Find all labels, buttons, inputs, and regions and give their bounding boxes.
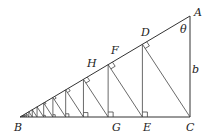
segment (108, 65, 142, 117)
right-angle-marks (44, 42, 150, 117)
label-d: D (140, 26, 150, 39)
side-ab (20, 16, 190, 117)
segment (66, 90, 84, 117)
segment (32, 110, 37, 117)
label-c: C (186, 121, 195, 134)
right-angle-mark (108, 112, 113, 117)
segment (29, 112, 32, 117)
label-h: H (86, 57, 97, 70)
label-b-vertex: B (13, 121, 22, 134)
perpendicular-sequence (21, 44, 190, 117)
label-e: E (142, 121, 151, 134)
label-theta: θ (180, 23, 187, 36)
segment (53, 97, 66, 117)
triangle-diagram: A θ b D F H B G E C (0, 0, 212, 139)
label-f: F (110, 44, 119, 57)
segment (44, 103, 53, 117)
segment (37, 107, 44, 117)
segment (142, 44, 190, 117)
label-g: G (112, 121, 121, 134)
segment (83, 79, 108, 117)
right-angle-mark (142, 112, 147, 117)
label-a: A (193, 6, 202, 19)
label-b: b (192, 63, 199, 76)
right-angle-mark (83, 113, 87, 117)
